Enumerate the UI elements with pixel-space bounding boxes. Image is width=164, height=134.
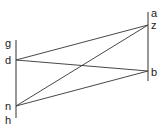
label-g: g — [5, 37, 11, 49]
segment-n-z — [16, 25, 148, 106]
label-a: a — [151, 7, 158, 19]
label-z: z — [151, 19, 157, 31]
label-h: h — [5, 114, 11, 126]
line-diagram: g d n h a z b — [0, 0, 164, 134]
segment-d-z — [16, 25, 148, 60]
label-b: b — [151, 66, 157, 78]
segment-n-b — [16, 71, 148, 106]
label-d: d — [5, 54, 11, 66]
label-n: n — [5, 100, 11, 112]
